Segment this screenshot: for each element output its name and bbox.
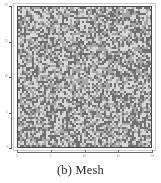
upper-right-ellipse bbox=[80, 35, 139, 60]
y-tick-label: 5 bbox=[1, 111, 8, 115]
figure-caption: (b) Mesh bbox=[0, 163, 161, 178]
lower-right-ellipse bbox=[76, 91, 136, 118]
y-tick bbox=[9, 148, 12, 149]
ellipse-group bbox=[38, 31, 138, 118]
x-tick-label: 20 bbox=[150, 155, 154, 159]
x-tick bbox=[152, 150, 153, 153]
plot-area bbox=[17, 6, 152, 148]
y-tick-label: 10 bbox=[1, 75, 8, 79]
y-tick bbox=[9, 113, 12, 114]
x-tick-label: 0 bbox=[16, 155, 18, 159]
y-tick-label: 15 bbox=[1, 40, 8, 44]
x-tick-label: 5 bbox=[50, 155, 52, 159]
x-tick bbox=[17, 150, 18, 153]
x-tick bbox=[118, 150, 119, 153]
y-tick bbox=[9, 42, 12, 43]
left-ellipse bbox=[38, 31, 59, 118]
y-tick bbox=[9, 77, 12, 78]
x-tick bbox=[85, 150, 86, 153]
y-tick-label: 20 bbox=[1, 4, 8, 8]
mesh-figure: (b) Mesh 0510152005101520 bbox=[0, 0, 161, 183]
x-tick-label: 15 bbox=[116, 155, 120, 159]
ellipse-overlay bbox=[18, 7, 151, 147]
y-tick-label: 0 bbox=[1, 146, 8, 150]
y-tick bbox=[9, 6, 12, 7]
x-tick-label: 10 bbox=[83, 155, 87, 159]
x-tick bbox=[51, 150, 52, 153]
